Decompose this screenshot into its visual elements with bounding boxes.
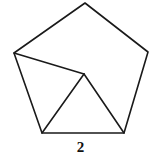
pentagon-outline: [14, 3, 148, 133]
segment-apex-to-bottom-right: [84, 74, 124, 133]
bottom-side-length-label: 2: [0, 139, 161, 156]
segment-apex-to-bottom-left: [42, 74, 84, 133]
geometry-canvas: [0, 0, 161, 160]
segment-left-vertex-to-apex: [14, 53, 84, 74]
geometry-figure: 2: [0, 0, 161, 160]
